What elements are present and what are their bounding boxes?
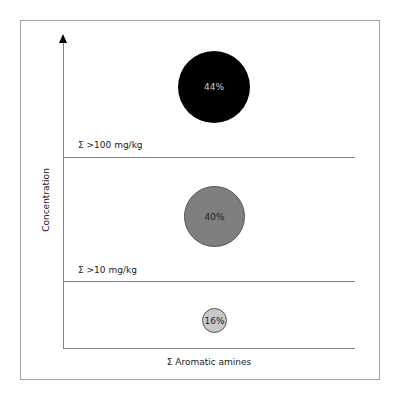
bubble-medium: 40% — [184, 186, 245, 247]
bubble-low: 16% — [202, 308, 227, 333]
bubble-high: 44% — [178, 51, 250, 123]
bubble-low-value: 16% — [204, 316, 224, 326]
bubble-medium-value: 40% — [204, 212, 224, 222]
threshold-label-100: Σ >100 mg/kg — [78, 140, 143, 150]
x-axis-label: Σ Aromatic amines — [167, 357, 252, 367]
threshold-line-100 — [63, 157, 355, 158]
bubble-high-value: 44% — [204, 82, 224, 92]
threshold-line-10 — [63, 281, 355, 282]
y-axis-label: Concentration — [41, 168, 51, 232]
threshold-label-10: Σ >10 mg/kg — [78, 265, 137, 275]
y-axis — [63, 38, 64, 349]
y-axis-arrow-icon — [59, 34, 67, 43]
x-axis — [63, 348, 355, 349]
